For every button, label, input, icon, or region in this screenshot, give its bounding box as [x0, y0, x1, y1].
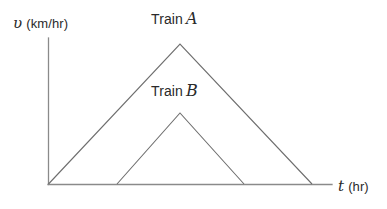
- train-b-label-word: Train: [151, 83, 183, 99]
- train-a-label-word: Train: [151, 11, 183, 27]
- train-a-label-letter: A: [183, 9, 198, 28]
- x-axis-units: (hr): [344, 179, 369, 194]
- train-b-label-letter: B: [183, 81, 198, 100]
- y-axis-units: (km/hr): [22, 16, 68, 31]
- y-axis-variable: υ: [13, 14, 22, 32]
- train-b-label: TrainB: [151, 83, 198, 99]
- y-axis-label: υ(km/hr): [13, 15, 68, 32]
- train-b-curve: [117, 113, 244, 184]
- velocity-time-graph-figure: υ(km/hr) t(hr) TrainA TrainB: [0, 0, 387, 209]
- train-a-label: TrainA: [151, 11, 198, 27]
- x-axis-label: t(hr): [338, 178, 369, 195]
